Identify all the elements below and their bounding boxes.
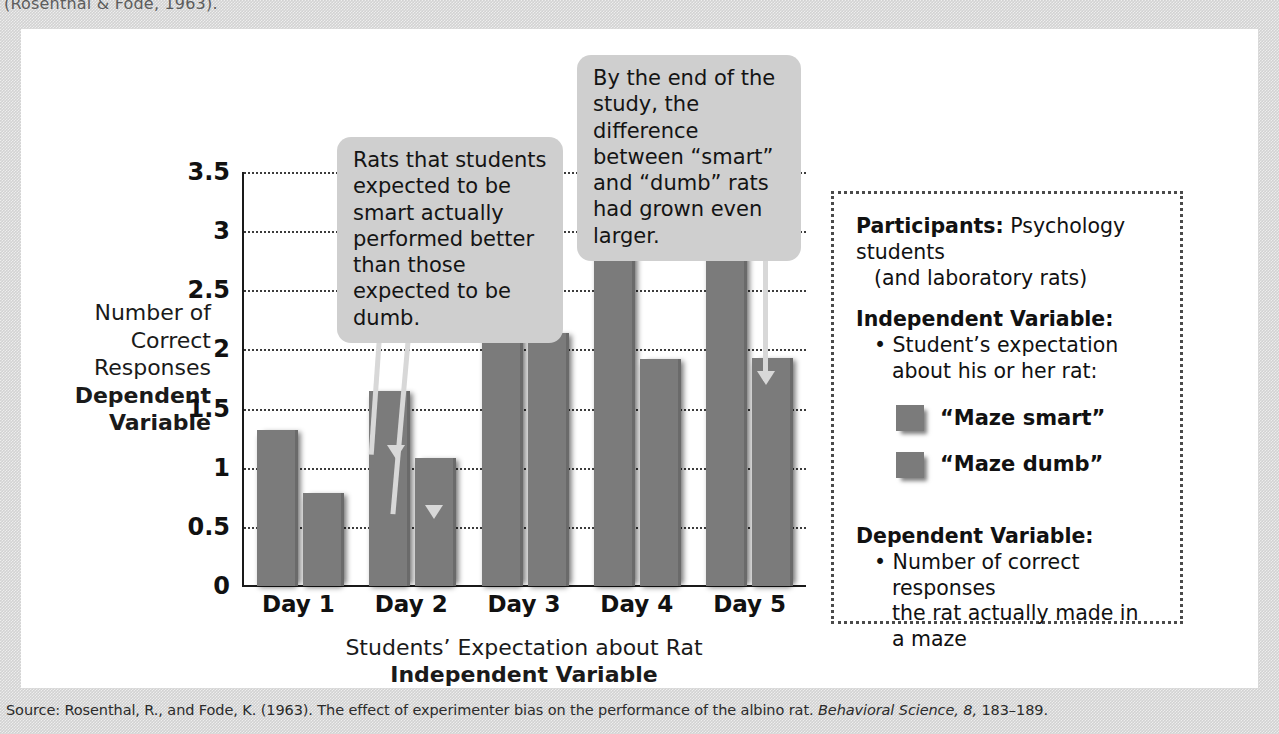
dependent-bullet-line1: • Number of correct responses xyxy=(874,550,1080,600)
legend-swatch-maze-dumb xyxy=(896,452,924,478)
y-tick-label: 0.5 xyxy=(187,513,230,541)
y-tick-label: 3.5 xyxy=(187,158,230,186)
y-tick-label: 2 xyxy=(213,335,230,363)
dependent-variable-bullet: • Number of correct responses the rat ac… xyxy=(856,550,1162,653)
x-axis-title-plain: Students’ Expectation about Rat xyxy=(345,635,702,660)
y-axis-title-bold2: Variable xyxy=(31,409,211,437)
bar xyxy=(594,244,635,586)
callout-smart-vs-dumb: Rats that students expected to be smart … xyxy=(337,137,563,343)
source-prefix: Source: Rosenthal, R., and Fode, K. (196… xyxy=(6,702,818,718)
x-tick-label: Day 3 xyxy=(468,591,581,617)
x-tick-label: Day 4 xyxy=(580,591,693,617)
arrowhead-2b xyxy=(757,371,775,385)
bar xyxy=(752,358,793,586)
bar xyxy=(257,430,298,586)
independent-variable-block: Independent Variable: • Student’s expect… xyxy=(856,307,1162,384)
x-tick-label: Day 5 xyxy=(693,591,806,617)
source-journal: Behavioral Science, 8, xyxy=(818,702,977,718)
dependent-bullet-line2: the rat actually made in xyxy=(892,601,1139,625)
y-tick-label: 1.5 xyxy=(187,395,230,423)
y-tick-label: 2.5 xyxy=(187,276,230,304)
x-tick-label: Day 2 xyxy=(355,591,468,617)
legend-label-maze-smart: “Maze smart” xyxy=(940,405,1105,431)
x-tick-label: Day 1 xyxy=(242,591,355,617)
y-tick-label: 1 xyxy=(213,454,230,482)
dependent-variable-block: Dependent Variable: • Number of correct … xyxy=(856,524,1162,653)
callout-end-of-study: By the end of the study, the difference … xyxy=(577,55,801,261)
independent-bullet-line1: • Student’s expectation xyxy=(874,333,1118,357)
chart-area: Number of Correct Responses Dependent Va… xyxy=(21,29,811,688)
independent-variable-bullet: • Student’s expectation about his or her… xyxy=(856,333,1162,385)
bar xyxy=(415,458,456,586)
y-axis-title-line3: Responses xyxy=(94,355,211,380)
participants-value2: (and laboratory rats) xyxy=(856,266,1162,292)
y-axis-title: Number of Correct Responses Dependent Va… xyxy=(31,299,211,437)
y-tick-label: 0 xyxy=(213,572,230,600)
x-axis-title: Students’ Expectation about Rat Independ… xyxy=(242,635,806,689)
y-tick-label: 3 xyxy=(213,217,230,245)
figure-panel: Number of Correct Responses Dependent Va… xyxy=(21,29,1258,688)
x-tick-labels: Day 1Day 2Day 3Day 4Day 5 xyxy=(242,591,806,617)
legend-label-maze-dumb: “Maze dumb” xyxy=(940,451,1103,477)
independent-bullet-line2: about his or her rat: xyxy=(892,359,1098,383)
participants-block: Participants: Psychology students (and l… xyxy=(856,214,1162,291)
dependent-variable-header: Dependent Variable: xyxy=(856,524,1162,550)
source-citation: Source: Rosenthal, R., and Fode, K. (196… xyxy=(6,702,1048,718)
study-info-box: Participants: Psychology students (and l… xyxy=(831,191,1183,624)
legend-item-maze-dumb: “Maze dumb” xyxy=(856,451,1162,477)
arrowhead-1b xyxy=(425,505,443,519)
x-axis-title-bold: Independent Variable xyxy=(242,662,806,689)
y-axis-title-line2: Correct xyxy=(131,328,211,353)
top-caption: (Rosenthal & Fode, 1963). xyxy=(4,0,218,13)
bar xyxy=(640,359,681,586)
legend-item-maze-smart: “Maze smart” xyxy=(856,405,1162,431)
legend-swatch-maze-smart xyxy=(896,405,924,431)
bar xyxy=(303,493,344,586)
independent-variable-header: Independent Variable: xyxy=(856,307,1162,333)
y-axis-title-bold1: Dependent xyxy=(31,382,211,410)
bar xyxy=(528,333,569,586)
dependent-bullet-line3: a maze xyxy=(892,627,967,651)
source-pages: 183–189. xyxy=(977,702,1048,718)
participants-label: Participants: xyxy=(856,214,1004,238)
